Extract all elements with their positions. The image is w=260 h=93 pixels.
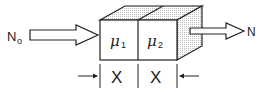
mu-2-symbol: μ <box>147 32 157 50</box>
output-label: N <box>247 25 256 39</box>
slab-1-thickness-label: X <box>111 68 122 87</box>
mu-1-symbol: μ <box>110 32 120 50</box>
input-arrow-icon <box>30 25 98 45</box>
input-label-subscript: o <box>17 36 22 46</box>
input-label: N o <box>7 29 22 46</box>
slab-2-thickness-label: X <box>150 68 161 87</box>
thickness-dimension: X X <box>78 64 199 88</box>
mu-1-subscript: 1 <box>121 40 126 50</box>
attenuation-diagram: N o μ 1 μ 2 N X X <box>0 0 260 93</box>
mu-2-subscript: 2 <box>158 40 163 50</box>
input-label-main: N <box>7 29 16 44</box>
